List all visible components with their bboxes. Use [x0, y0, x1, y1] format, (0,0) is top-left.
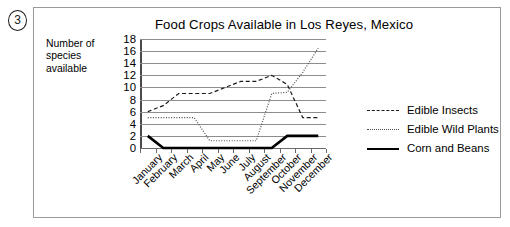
- y-tick-label: 2: [130, 130, 136, 141]
- series-line: [148, 48, 319, 141]
- y-axis-label-line-2: species: [46, 50, 118, 62]
- legend-label: Corn and Beans: [407, 142, 489, 154]
- y-tick-label: 4: [130, 118, 136, 129]
- y-tick-label: 16: [123, 46, 136, 57]
- chart-legend: Edible InsectsEdible Wild PlantsCorn and…: [367, 100, 497, 157]
- series-lines: [140, 39, 326, 148]
- y-axis-label-line-1: Number of: [46, 38, 118, 50]
- figure-frame: Food Crops Available in Los Reyes, Mexic…: [33, 7, 501, 218]
- y-axis-label: Number of species available: [46, 38, 118, 75]
- chart-page: 3 Food Crops Available in Los Reyes, Mex…: [0, 0, 510, 227]
- legend-item[interactable]: Corn and Beans: [367, 138, 497, 157]
- legend-swatch-dotted-icon: [367, 124, 399, 134]
- y-tick-label: 12: [123, 70, 136, 81]
- y-axis-label-line-3: available: [46, 63, 118, 75]
- chart-title: Food Crops Available in Los Reyes, Mexic…: [94, 17, 474, 32]
- y-tick-label: 8: [130, 94, 136, 105]
- y-tick-label: 0: [130, 143, 136, 154]
- y-tick-label: 10: [123, 82, 136, 93]
- x-axis-labels: JanuaryFebruaryMarchAprilMayJuneJulyAugu…: [140, 149, 390, 219]
- y-tick-label: 14: [123, 58, 136, 69]
- legend-swatch-solid-icon: [367, 143, 399, 153]
- series-line: [148, 136, 319, 148]
- legend-item[interactable]: Edible Insects: [367, 100, 497, 119]
- plot-area: 024681012141618: [140, 39, 326, 148]
- y-tick-label: 18: [123, 34, 136, 45]
- legend-item[interactable]: Edible Wild Plants: [367, 119, 497, 138]
- legend-swatch-dashed-icon: [367, 105, 399, 115]
- legend-label: Edible Insects: [407, 104, 478, 116]
- series-line: [148, 75, 319, 117]
- legend-label: Edible Wild Plants: [407, 123, 499, 135]
- item-number-badge: 3: [8, 10, 27, 31]
- y-tick-label: 6: [130, 106, 136, 117]
